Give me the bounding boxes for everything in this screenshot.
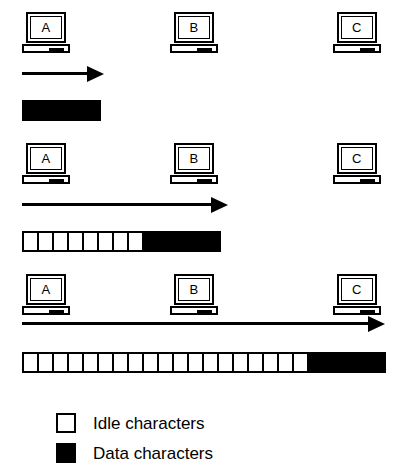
frame-cell-idle bbox=[159, 354, 174, 371]
laptop-lid-icon: A bbox=[26, 274, 66, 305]
station-label: A bbox=[41, 283, 50, 296]
diagram-canvas: A B C bbox=[0, 0, 406, 470]
frame-bar-row3 bbox=[22, 352, 386, 373]
laptop-lid-icon: B bbox=[174, 143, 214, 174]
frame-cell-idle bbox=[234, 354, 249, 371]
arrow-head-icon bbox=[87, 66, 104, 82]
laptop-screen: B bbox=[178, 16, 210, 39]
frame-cell-data bbox=[309, 354, 384, 371]
laptop-trackpad-icon bbox=[49, 179, 64, 182]
laptop-base-icon bbox=[333, 306, 381, 315]
frame-cell-idle bbox=[54, 354, 69, 371]
station-laptop-c-row3: C bbox=[333, 274, 381, 316]
frame-cell-idle bbox=[24, 354, 39, 371]
frame-cell-idle bbox=[114, 354, 129, 371]
laptop-lid-icon: C bbox=[337, 12, 377, 43]
frame-cell-idle bbox=[279, 354, 294, 371]
laptop-lid-icon: C bbox=[337, 143, 377, 174]
laptop-lid-icon: A bbox=[26, 143, 66, 174]
laptop-trackpad-icon bbox=[197, 48, 212, 51]
laptop-base-icon bbox=[22, 175, 70, 184]
station-laptop-a-row2: A bbox=[22, 143, 70, 185]
laptop-base-icon bbox=[170, 306, 218, 315]
station-laptop-b-row1: B bbox=[170, 12, 218, 54]
arrow-shaft bbox=[22, 203, 211, 206]
laptop-screen: B bbox=[178, 147, 210, 170]
frame-cell-idle bbox=[39, 354, 54, 371]
propagation-arrow-row3 bbox=[22, 316, 385, 332]
legend-swatch-data-icon bbox=[56, 443, 76, 463]
laptop-base-icon bbox=[22, 306, 70, 315]
frame-cell-idle bbox=[219, 354, 234, 371]
station-laptop-a-row3: A bbox=[22, 274, 70, 316]
propagation-arrow-row1 bbox=[22, 66, 104, 82]
station-label: B bbox=[189, 283, 198, 296]
laptop-screen: C bbox=[341, 16, 373, 39]
frame-cell-idle bbox=[264, 354, 279, 371]
propagation-arrow-row2 bbox=[22, 197, 228, 213]
laptop-screen: C bbox=[341, 147, 373, 170]
legend-item-idle: Idle characters bbox=[56, 408, 213, 438]
frame-cell-idle bbox=[129, 233, 144, 250]
arrow-head-icon bbox=[368, 316, 385, 332]
station-label: A bbox=[41, 21, 50, 34]
laptop-lid-icon: B bbox=[174, 12, 214, 43]
legend-swatch-idle-icon bbox=[56, 413, 76, 433]
frame-cell-idle bbox=[294, 354, 309, 371]
arrow-head-icon bbox=[211, 197, 228, 213]
frame-bar-row2 bbox=[22, 231, 221, 252]
station-laptop-a-row1: A bbox=[22, 12, 70, 54]
laptop-trackpad-icon bbox=[360, 179, 375, 182]
frame-cell-idle bbox=[69, 354, 84, 371]
station-label: A bbox=[41, 152, 50, 165]
frame-cell-data bbox=[144, 233, 219, 250]
station-laptop-c-row2: C bbox=[333, 143, 381, 185]
laptop-trackpad-icon bbox=[49, 48, 64, 51]
station-label: B bbox=[189, 21, 198, 34]
frame-cell-idle bbox=[24, 233, 39, 250]
laptop-base-icon bbox=[170, 44, 218, 53]
laptop-screen: C bbox=[341, 278, 373, 301]
station-label: C bbox=[352, 283, 362, 296]
laptop-lid-icon: C bbox=[337, 274, 377, 305]
frame-cell-idle bbox=[84, 354, 99, 371]
laptop-screen: A bbox=[30, 16, 62, 39]
station-label: C bbox=[352, 152, 362, 165]
frame-cell-idle bbox=[54, 233, 69, 250]
legend-item-data: Data characters bbox=[56, 438, 213, 468]
frame-bar-row1 bbox=[22, 100, 101, 121]
laptop-screen: A bbox=[30, 278, 62, 301]
frame-cell-idle bbox=[99, 354, 114, 371]
laptop-lid-icon: B bbox=[174, 274, 214, 305]
legend-label-data: Data characters bbox=[93, 445, 213, 462]
legend-label-idle: Idle characters bbox=[93, 415, 205, 432]
laptop-screen: A bbox=[30, 147, 62, 170]
frame-cell-idle bbox=[144, 354, 159, 371]
arrow-shaft bbox=[22, 322, 368, 325]
station-laptop-b-row3: B bbox=[170, 274, 218, 316]
frame-cell-idle bbox=[204, 354, 219, 371]
frame-cell-idle bbox=[189, 354, 204, 371]
frame-cell-idle bbox=[174, 354, 189, 371]
frame-cell-data bbox=[24, 102, 99, 119]
laptop-screen: B bbox=[178, 278, 210, 301]
laptop-base-icon bbox=[22, 44, 70, 53]
station-label: B bbox=[189, 152, 198, 165]
frame-cell-idle bbox=[129, 354, 144, 371]
station-laptop-b-row2: B bbox=[170, 143, 218, 185]
laptop-trackpad-icon bbox=[197, 179, 212, 182]
laptop-lid-icon: A bbox=[26, 12, 66, 43]
laptop-base-icon bbox=[333, 175, 381, 184]
laptop-trackpad-icon bbox=[360, 48, 375, 51]
laptop-base-icon bbox=[170, 175, 218, 184]
station-label: C bbox=[352, 21, 362, 34]
frame-cell-idle bbox=[84, 233, 99, 250]
laptop-trackpad-icon bbox=[360, 310, 375, 313]
frame-cell-idle bbox=[114, 233, 129, 250]
laptop-trackpad-icon bbox=[49, 310, 64, 313]
frame-cell-idle bbox=[99, 233, 114, 250]
station-laptop-c-row1: C bbox=[333, 12, 381, 54]
laptop-trackpad-icon bbox=[197, 310, 212, 313]
legend: Idle characters Data characters bbox=[56, 408, 213, 468]
laptop-base-icon bbox=[333, 44, 381, 53]
